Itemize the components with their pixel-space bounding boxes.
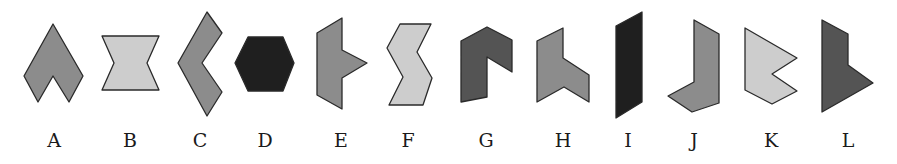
shape-label-c: C [193, 129, 208, 151]
labels-layer: ABCDEFGHIJKL [46, 129, 855, 151]
shape-e [317, 18, 367, 109]
shape-l [822, 20, 873, 112]
shape-label-j: J [688, 129, 698, 151]
shapes-layer [24, 12, 873, 118]
shapes-figure: ABCDEFGHIJKL [0, 0, 897, 164]
shape-d [235, 37, 294, 91]
shape-h [537, 28, 589, 102]
shape-label-l: L [842, 129, 855, 151]
shape-label-h: H [555, 129, 572, 151]
shape-b [102, 36, 159, 90]
shape-k [745, 28, 797, 104]
shape-i [616, 12, 642, 118]
shape-label-f: F [401, 129, 414, 151]
shape-c [178, 12, 222, 116]
shape-label-i: I [624, 129, 632, 151]
shape-g [461, 27, 512, 102]
shape-a [24, 24, 83, 102]
shape-label-b: B [123, 129, 137, 151]
shape-label-e: E [334, 129, 348, 151]
shape-label-d: D [257, 129, 272, 151]
shape-label-g: G [478, 129, 493, 151]
shape-f [387, 24, 432, 105]
shape-label-a: A [46, 129, 61, 151]
shape-label-k: K [764, 129, 779, 151]
shape-j [668, 20, 719, 112]
